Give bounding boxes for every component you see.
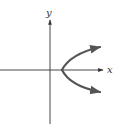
- parabola-diagram: x y: [0, 0, 118, 128]
- x-axis-label: x: [107, 64, 113, 75]
- parabola-curve: [62, 47, 100, 92]
- y-axis-label: y: [45, 7, 52, 18]
